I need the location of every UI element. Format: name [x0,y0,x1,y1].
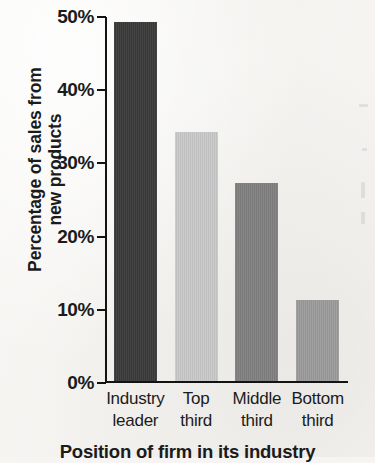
x-axis-category-label: Middle third [223,388,292,432]
y-axis-tick-label: 0% [67,372,94,394]
y-axis-tick-mark [97,382,106,384]
bar [114,22,157,381]
bar-fill-texture [296,300,339,381]
y-axis-tick-mark [97,162,106,164]
y-axis-tick-mark [97,309,106,311]
y-axis-tick-label: 20% [57,226,94,248]
x-axis-category-labels: Industry leaderTop thirdMiddle thirdBott… [105,388,357,438]
x-axis-category-label: Industry leader [101,388,170,432]
plot-area: 0%10%20%30%40%50% [105,17,348,383]
x-axis-category-label: Bottom third [283,388,352,432]
bar-fill-texture [114,22,157,381]
x-axis-line [105,381,348,383]
y-axis-tick-label: 40% [57,79,94,101]
y-axis-tick-label: 10% [57,299,94,321]
bar [296,300,339,381]
y-axis-tick-mark [97,236,106,238]
bar [235,183,278,381]
y-axis-tick-mark [97,16,106,18]
x-axis-category-label: Top third [162,388,231,432]
y-axis-line [105,17,107,383]
x-axis-title: Position of firm in its industry [0,441,375,463]
y-axis-tick-label: 50% [57,6,94,28]
y-axis-tick-mark [97,89,106,91]
scan-bleed-artifacts [345,86,371,236]
bar-fill-texture [175,132,218,381]
bar [175,132,218,381]
bar-fill-texture [235,183,278,381]
y-axis-tick-label: 30% [57,152,94,174]
